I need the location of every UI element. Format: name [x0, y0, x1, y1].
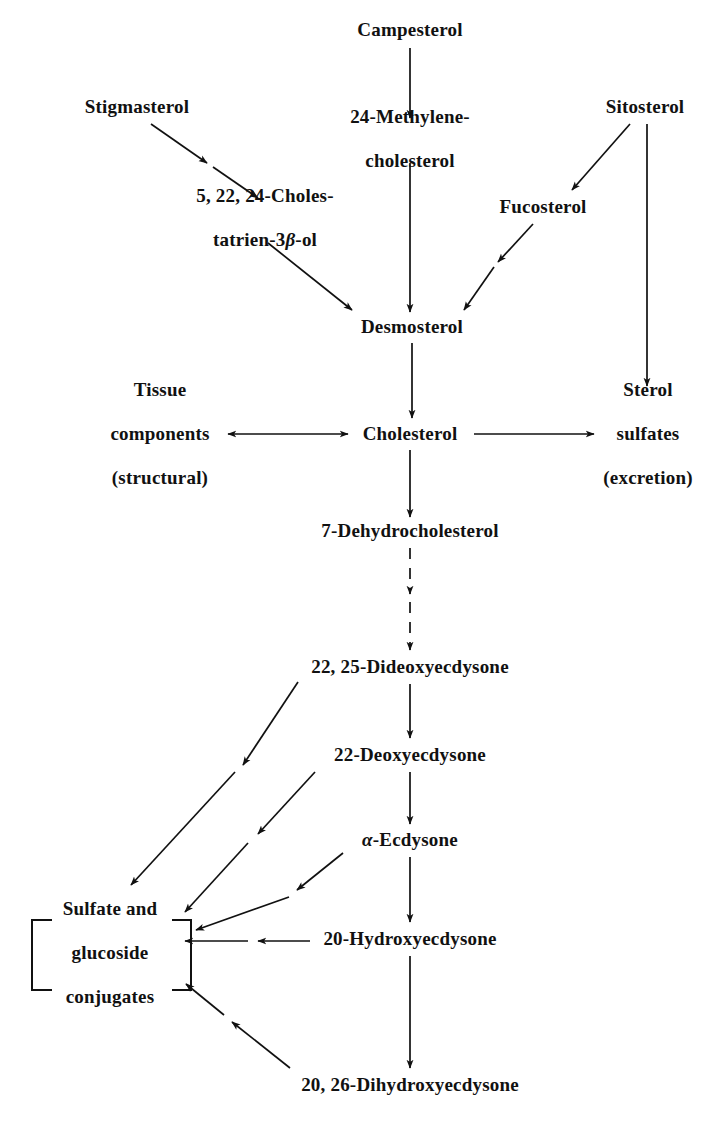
edge-alphaecdysone-conjugates-seg1	[297, 853, 343, 890]
node-fucosterol: Fucosterol	[499, 174, 586, 240]
node-22-25-dideoxyecdysone: 22, 25-Dideoxyecdysone	[311, 634, 509, 700]
node-7-dehydrocholesterol: 7-Dehydrocholesterol	[321, 498, 498, 564]
greek-glyph: β	[285, 229, 295, 250]
edge-dideoxyecdysone-conjugates-seg2	[131, 772, 235, 885]
node-20-hydroxyecdysone: 20-Hydroxyecdysone	[323, 906, 496, 972]
pathway-diagram: Campesterol Stigmasterol 24-Methylene- c…	[0, 0, 718, 1127]
edge-alphaecdysone-conjugates-seg2	[196, 897, 289, 930]
node-desmosterol: Desmosterol	[361, 294, 463, 360]
edge-fucosterol-desmosterol-seg2	[464, 267, 494, 310]
greek-glyph: α	[362, 829, 373, 850]
node-sterol-sulfates: Sterol sulfates (excretion)	[603, 357, 692, 511]
edge-deoxyecdysone-conjugates-seg1	[258, 772, 315, 834]
node-stigmasterol: Stigmasterol	[85, 74, 189, 140]
node-campesterol: Campesterol	[357, 0, 462, 63]
edge-dideoxyecdysone-conjugates-seg1	[243, 682, 298, 765]
node-cholestatrien-3beta-ol: 5, 22, 24-Choles- tatrien-3β-ol	[196, 163, 333, 273]
node-24-methylene-cholesterol: 24-Methylene- cholesterol	[350, 84, 470, 194]
node-tissue-components: Tissue components (structural)	[110, 357, 209, 511]
edge-dihydroxyecdysone-conjugates-seg2	[186, 984, 224, 1015]
node-alpha-ecdysone: α-Ecdysone	[362, 807, 458, 873]
node-sitosterol: Sitosterol	[606, 74, 685, 140]
node-sulfate-glucoside-conjugates: Sulfate and glucoside conjugates	[63, 876, 158, 1030]
node-22-deoxyecdysone: 22-Deoxyecdysone	[334, 722, 486, 788]
edge-deoxyecdysone-conjugates-seg2	[185, 843, 248, 912]
edge-dihydroxyecdysone-conjugates-seg1	[232, 1022, 290, 1068]
node-20-26-dihydroxyecdysone: 20, 26-Dihydroxyecdysone	[301, 1052, 519, 1118]
node-cholesterol: Cholesterol	[363, 401, 458, 467]
